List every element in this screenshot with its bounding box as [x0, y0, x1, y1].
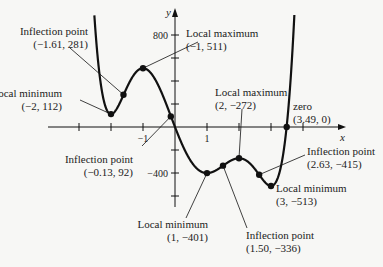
annotation-title: Inflection point — [20, 25, 88, 37]
leader-line — [223, 166, 247, 228]
annotation-title: Inflection point — [307, 145, 375, 157]
annotation-title: Local maximum — [215, 86, 288, 98]
annotation-title: Local minimum — [0, 87, 62, 99]
y-tick-label: −400 — [147, 168, 168, 179]
leader-line — [142, 116, 171, 146]
point-marker — [140, 65, 146, 71]
annotation-coords: (3, −513) — [276, 195, 317, 208]
x-tick-label: 1 — [205, 133, 210, 144]
function-plot: xy−11800−400 Inflection point(−1.61, 281… — [0, 0, 383, 267]
annotation-coords: (1, −401) — [167, 231, 208, 244]
y-axis-arrow — [172, 8, 178, 17]
annotation-coords: (3.49, 0) — [293, 113, 331, 126]
x-axis-arrow — [338, 124, 346, 130]
annotation-title: zero — [293, 100, 312, 112]
leader-line — [239, 109, 242, 158]
annotation-title: Inflection point — [246, 229, 314, 241]
annotation-coords: (1.50, −336) — [246, 242, 301, 255]
point-marker — [108, 111, 114, 117]
annotation-labels: Inflection point(−1.61, 281)Local maximu… — [0, 25, 375, 255]
x-tick-label: −1 — [138, 133, 149, 144]
point-marker — [220, 162, 226, 168]
y-tick-label: 800 — [153, 30, 168, 41]
x-axis-label: x — [339, 131, 345, 143]
annotation-coords: (−1.61, 281) — [33, 38, 88, 51]
point-marker — [236, 155, 242, 161]
point-marker — [120, 91, 126, 97]
leader-lines — [70, 42, 305, 228]
annotation-coords: (2, −272) — [215, 99, 256, 112]
point-marker — [283, 124, 289, 130]
annotation-coords: (2.63, −415) — [307, 158, 362, 171]
leader-line — [186, 173, 207, 218]
annotation-title: Inflection point — [65, 153, 133, 165]
annotation-coords: (−2, 112) — [21, 100, 62, 113]
annotation-title: Local maximum — [186, 27, 259, 39]
annotation-coords: (−0.13, 92) — [84, 166, 134, 179]
point-marker — [168, 113, 174, 119]
annotation-title: Local minimum — [137, 218, 208, 230]
y-axis-label: y — [165, 6, 171, 18]
annotation-title: Local minimum — [276, 182, 347, 194]
annotation-coords: (−1, 511) — [186, 40, 227, 53]
point-marker — [268, 183, 274, 189]
point-marker — [256, 172, 262, 178]
point-marker — [204, 170, 210, 176]
